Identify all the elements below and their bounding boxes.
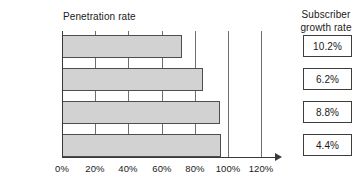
xtick-label-60: 60% [152,163,171,174]
y-axis-line [62,31,63,158]
xtick-label-40: 40% [118,163,137,174]
bar-germany[interactable] [62,35,182,58]
bar-italy[interactable] [62,134,221,157]
xtick-label-0: 0% [55,163,69,174]
bar-uk[interactable] [62,68,203,91]
side-panel-title-line2: growth rate [290,22,362,33]
chart-title: Penetration rate [63,11,136,22]
gridline-120 [261,31,262,157]
growth-rate-box-germany[interactable]: 10.2% [303,35,352,57]
xtick-label-80: 80% [185,163,204,174]
xtick-label-120: 120% [249,163,274,174]
x-axis-arrow-icon [275,153,282,161]
xtick-label-20: 20% [85,163,104,174]
gridline-100 [228,31,229,157]
growth-rate-box-sweden[interactable]: 8.8% [303,101,352,123]
subscriber-growth-rate-panel: Subscriber growth rate 10.2% 6.2% 8.8% 4… [290,0,362,184]
bar-sweden[interactable] [62,101,220,124]
penetration-rate-chart: Penetration rate Germany UK Sweden Italy… [0,0,290,184]
growth-rate-box-italy[interactable]: 4.4% [303,134,352,156]
growth-rate-box-uk[interactable]: 6.2% [303,68,352,90]
chart-screenshot: Penetration rate Germany UK Sweden Italy… [0,0,362,184]
x-axis-line [62,157,277,158]
xtick-label-100: 100% [216,163,241,174]
side-panel-title-line1: Subscriber [290,9,362,20]
